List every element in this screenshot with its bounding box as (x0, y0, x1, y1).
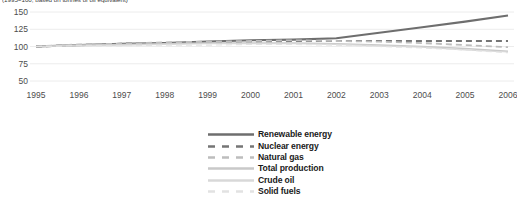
x-axis-tick-label: 2004 (413, 90, 432, 100)
y-axis-labels: 1501251007550 (0, 6, 30, 88)
legend-swatch-icon (208, 175, 254, 186)
legend-item-label: Natural gas (258, 152, 304, 163)
chart-svg (0, 6, 516, 88)
x-axis-tick-label: 2001 (284, 90, 303, 100)
legend-swatch-icon (208, 129, 254, 140)
x-axis-tick-label: 2003 (370, 90, 389, 100)
legend-swatch-icon (208, 163, 254, 174)
x-axis-tick-label: 1998 (155, 90, 174, 100)
x-axis-tick-label: 1999 (198, 90, 217, 100)
y-axis-tick-label: 100 (14, 42, 28, 52)
x-axis-labels: 1995199619971998199920002001200220032004… (0, 90, 516, 106)
y-axis-tick-label: 125 (14, 24, 28, 34)
legend-swatch-icon (208, 186, 254, 197)
legend-item[interactable]: Natural gas (208, 152, 332, 163)
legend-item-label: Crude oil (258, 175, 294, 186)
legend-item-label: Nuclear energy (258, 141, 319, 152)
x-axis-tick-label: 2000 (241, 90, 260, 100)
legend-item[interactable]: Crude oil (208, 175, 332, 186)
legend-swatch-icon (208, 152, 254, 163)
x-axis-tick-label: 1997 (112, 90, 131, 100)
legend-item-label: Total production (258, 163, 324, 174)
x-axis-tick-label: 2006 (499, 90, 517, 100)
series-line (36, 44, 508, 52)
y-axis-tick-label: 50 (19, 76, 28, 86)
legend-item-label: Renewable energy (258, 129, 332, 140)
chart-legend: Renewable energyNuclear energyNatural ga… (208, 129, 332, 197)
x-axis-tick-label: 1995 (27, 90, 46, 100)
legend-item[interactable]: Renewable energy (208, 129, 332, 140)
chart-plot-area (0, 6, 516, 88)
chart-caption: (1995=100, based on tonnes of oil equiva… (2, 0, 332, 3)
legend-item[interactable]: Solid fuels (208, 186, 332, 197)
x-axis-tick-label: 1996 (69, 90, 88, 100)
y-axis-tick-label: 150 (14, 7, 28, 17)
x-axis-tick-label: 2005 (456, 90, 475, 100)
x-axis-tick-label: 2002 (327, 90, 346, 100)
legend-swatch-icon (208, 141, 254, 152)
series-line (36, 44, 508, 52)
legend-item-label: Solid fuels (258, 186, 300, 197)
legend-item[interactable]: Nuclear energy (208, 140, 332, 151)
y-axis-tick-label: 75 (19, 59, 28, 69)
legend-item[interactable]: Total production (208, 163, 332, 174)
